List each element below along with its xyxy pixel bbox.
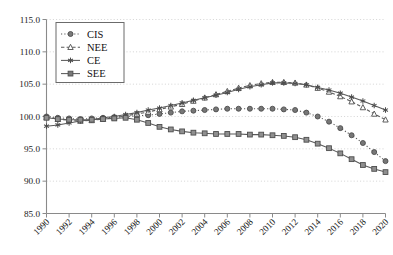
data-point-asterisk [349,94,354,100]
series-see [44,115,388,174]
data-point-filled-square [123,115,128,120]
data-point-filled-circle [281,107,286,112]
y-axis-tick-label: 90.0 [24,176,40,186]
x-axis-tick-label: 1996 [99,217,119,237]
data-point-filled-square [112,116,117,121]
legend-label: CIS [87,29,104,40]
data-point-filled-circle [360,141,365,146]
x-axis-tick-label: 1990 [31,217,51,237]
data-point-filled-circle [372,150,377,155]
chart-container: 85.090.095.0100.0105.0110.0115.0 1990199… [0,0,393,255]
data-point-filled-square [259,132,264,137]
x-axis-tick-label: 2012 [280,217,300,237]
legend-label: SEE [87,68,106,79]
data-point-filled-square [315,141,320,146]
x-axis-tick-label: 2000 [144,217,164,237]
data-point-filled-square [281,134,286,139]
data-point-filled-square [338,151,343,156]
data-point-open-triangle [360,105,365,110]
x-axis-tick-label: 1998 [122,217,142,237]
data-point-filled-circle [68,32,73,37]
data-point-filled-square [68,71,73,76]
data-point-filled-circle [327,119,332,124]
data-point-asterisk [360,98,365,104]
data-point-filled-square [44,115,49,120]
data-point-filled-square [157,124,162,129]
data-point-filled-circle [214,107,219,112]
x-axis-tick-label: 1992 [54,217,74,237]
series-line-nee [47,82,386,121]
x-axis-tick-labels: 1990199219941996199820002002200420062008… [31,217,390,237]
x-axis-tick-label: 2014 [303,217,323,237]
y-axis-tick-label: 115.0 [20,15,41,25]
x-axis-tick-label: 2020 [370,217,390,237]
x-axis-tick-label: 1994 [77,217,97,237]
legend-label: CE [87,55,100,66]
data-point-filled-square [214,132,219,137]
data-point-filled-square [78,117,83,122]
y-axis-tick-label: 95.0 [24,144,40,154]
data-point-filled-square [101,117,106,122]
y-axis-tick-label: 105.0 [19,79,40,89]
x-axis-tick-label: 2008 [235,217,255,237]
data-point-filled-square [349,157,354,162]
data-point-filled-square [372,166,377,171]
data-point-filled-square [202,131,207,136]
data-point-filled-circle [383,159,388,164]
data-point-filled-circle [315,114,320,119]
data-point-filled-circle [202,108,207,113]
data-point-filled-circle [157,111,162,116]
y-axis-tick-labels: 85.090.095.0100.0105.0110.0115.0 [19,15,40,219]
data-point-filled-square [180,129,185,134]
legend-label: NEE [87,42,107,53]
y-axis-tick-label: 85.0 [24,209,40,219]
chart-legend: CISNEECESEE [56,23,124,83]
data-point-filled-circle [304,110,309,115]
data-point-filled-square [304,137,309,142]
data-point-open-triangle [383,117,388,122]
x-axis-tick-label: 2006 [212,217,232,237]
data-point-filled-square [191,130,196,135]
data-point-filled-circle [180,109,185,114]
data-point-filled-square [383,170,388,175]
data-point-filled-square [248,132,253,137]
y-axis-tick-label: 110.0 [20,47,41,57]
data-point-filled-circle [191,108,196,113]
data-series-group [44,79,388,174]
data-point-asterisk [383,107,388,113]
data-point-filled-square [89,117,94,122]
data-point-filled-square [168,127,173,132]
x-axis-tick-label: 2004 [190,217,210,237]
data-point-open-triangle [372,111,377,116]
data-point-filled-square [135,117,140,122]
data-point-filled-square [67,117,72,122]
data-point-filled-square [270,133,275,138]
data-point-filled-circle [270,106,275,111]
data-point-filled-circle [349,133,354,138]
data-point-filled-circle [225,106,230,111]
series-ce [44,80,388,129]
data-point-filled-circle [338,126,343,131]
data-point-filled-square [361,163,366,168]
data-point-filled-square [236,132,241,137]
x-axis-tick-label: 2016 [325,217,345,237]
data-point-asterisk [372,103,377,109]
x-axis-tick-label: 2002 [167,217,187,237]
line-chart: 85.090.095.0100.0105.0110.0115.0 1990199… [0,0,393,255]
data-point-filled-circle [259,106,264,111]
data-point-filled-square [293,135,298,140]
series-line-see [47,118,386,172]
x-axis-tick-label: 2018 [348,217,368,237]
data-point-filled-circle [293,108,298,113]
data-point-filled-circle [247,106,252,111]
y-axis-tick-label: 100.0 [19,112,40,122]
data-point-filled-circle [168,110,173,115]
data-point-filled-circle [236,106,241,111]
data-point-filled-square [146,121,151,126]
x-axis-tick-label: 2010 [257,217,277,237]
data-point-filled-square [225,132,230,137]
data-point-filled-square [327,146,332,151]
data-point-filled-square [55,117,60,122]
